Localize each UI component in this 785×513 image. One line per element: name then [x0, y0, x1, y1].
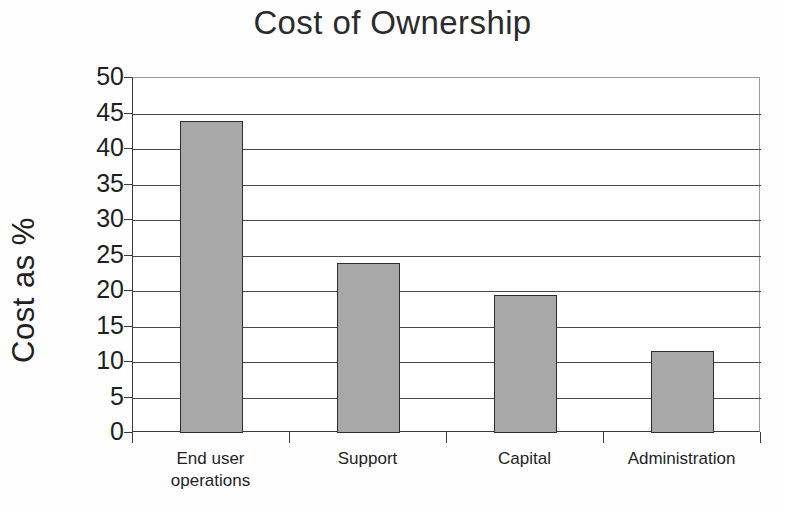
y-axis-title: Cost as % [6, 180, 42, 400]
x-axis-category-label-line: Support [289, 448, 446, 470]
gridline [133, 114, 761, 115]
x-axis-tick-mark [446, 432, 447, 443]
bar [180, 121, 243, 433]
bar [337, 263, 400, 433]
x-axis-category-label-line: End user [132, 448, 289, 470]
x-axis-category-label-line: Capital [446, 448, 603, 470]
x-axis-category-label: End useroperations [132, 448, 289, 492]
x-axis-category-label: Administration [603, 448, 760, 470]
y-axis-tick-label: 30 [64, 206, 124, 231]
y-axis-tick-label: 5 [64, 384, 124, 409]
y-axis-tick-labels: 50454035302520151050 [58, 0, 124, 513]
bar [494, 295, 557, 433]
y-axis-tick-label: 40 [64, 135, 124, 160]
x-axis-category-label-line: Administration [603, 448, 760, 470]
y-axis-tick-label: 20 [64, 277, 124, 302]
y-axis-tick-label: 25 [64, 242, 124, 267]
x-axis-category-label-line: operations [132, 470, 289, 492]
y-axis-tick-label: 0 [64, 419, 124, 444]
y-axis-tick-label: 35 [64, 171, 124, 196]
bar [651, 351, 714, 433]
plot-area [132, 77, 760, 432]
chart-container: Cost of Ownership Cost as % 504540353025… [0, 0, 785, 513]
y-axis-tick-label: 10 [64, 348, 124, 373]
x-axis-tick-mark [760, 432, 761, 443]
x-axis-category-label: Capital [446, 448, 603, 470]
x-axis-category-label: Support [289, 448, 446, 470]
y-axis-tick-label: 45 [64, 100, 124, 125]
y-axis-tick-label: 50 [64, 64, 124, 89]
x-axis-tick-mark [132, 432, 133, 443]
x-axis-tick-mark [603, 432, 604, 443]
y-axis-tick-label: 15 [64, 313, 124, 338]
x-axis-tick-mark [289, 432, 290, 443]
